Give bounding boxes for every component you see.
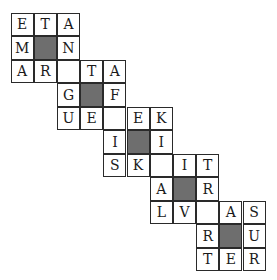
letter-cell[interactable]: I	[150, 130, 173, 154]
letter-cell[interactable]: A	[11, 60, 34, 84]
letter-cell[interactable]: T	[196, 154, 219, 178]
letter-cell[interactable]: G	[57, 83, 80, 107]
letter-cell[interactable]: S	[103, 154, 126, 178]
letter-cell[interactable]: V	[173, 201, 196, 225]
letter-cell[interactable]: K	[127, 154, 150, 178]
block-cell	[127, 130, 150, 154]
letter-cell[interactable]: K	[150, 107, 173, 131]
letter-cell[interactable]: A	[150, 177, 173, 201]
letter-cell[interactable]	[150, 154, 173, 178]
letter-cell[interactable]: T	[34, 13, 57, 37]
letter-cell[interactable]	[196, 201, 219, 225]
letter-cell[interactable]: I	[103, 130, 126, 154]
letter-cell[interactable]: N	[57, 36, 80, 60]
letter-cell[interactable]: A	[103, 60, 126, 84]
letter-cell[interactable]: E	[80, 107, 103, 131]
letter-cell[interactable]: T	[80, 60, 103, 84]
letter-cell[interactable]: A	[57, 13, 80, 37]
letter-cell[interactable]: M	[11, 36, 34, 60]
letter-cell[interactable]: I	[173, 154, 196, 178]
letter-cell[interactable]: R	[196, 177, 219, 201]
crossword-grid: ETAMNARTAGFUEEKIISKITARLVASRUTER	[11, 13, 267, 272]
letter-cell[interactable]: E	[219, 248, 242, 272]
block-cell	[34, 36, 57, 60]
letter-cell[interactable]: U	[243, 224, 266, 248]
letter-cell[interactable]: L	[150, 201, 173, 225]
letter-cell[interactable]	[57, 60, 80, 84]
letter-cell[interactable]: E	[127, 107, 150, 131]
letter-cell[interactable]: R	[196, 224, 219, 248]
block-cell	[173, 177, 196, 201]
letter-cell[interactable]: R	[243, 248, 266, 272]
letter-cell[interactable]	[103, 107, 126, 131]
letter-cell[interactable]: R	[34, 60, 57, 84]
letter-cell[interactable]: F	[103, 83, 126, 107]
letter-cell[interactable]: U	[57, 107, 80, 131]
letter-cell[interactable]: E	[11, 13, 34, 37]
block-cell	[219, 224, 242, 248]
block-cell	[80, 83, 103, 107]
letter-cell[interactable]: S	[243, 201, 266, 225]
letter-cell[interactable]: T	[196, 248, 219, 272]
letter-cell[interactable]: A	[219, 201, 242, 225]
